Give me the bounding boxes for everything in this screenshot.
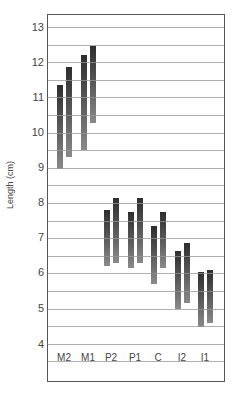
- y-axis-label: Length (cm): [5, 147, 15, 223]
- gridline: [48, 80, 224, 81]
- y-tick: 12: [22, 56, 44, 68]
- gridline: [48, 97, 224, 98]
- gridline: [48, 256, 224, 257]
- y-tick: 5: [22, 302, 44, 314]
- gridline: [48, 45, 224, 46]
- range-bar-m1-left: [81, 55, 87, 150]
- tooth-length-chart: 13 12 11 10 9 8 7 6 5 4 Length (cm) M2 M…: [0, 0, 238, 400]
- gridline: [48, 309, 224, 310]
- range-bar-i1-left: [198, 272, 204, 327]
- y-tick: 11: [22, 91, 44, 103]
- y-tick: 8: [22, 196, 44, 208]
- range-bar-m1-right: [90, 46, 96, 123]
- range-bar-i2-left: [175, 251, 181, 309]
- gridline: [48, 115, 224, 116]
- gridline: [48, 238, 224, 239]
- range-bar-c-left: [151, 226, 157, 284]
- gridline: [48, 133, 224, 134]
- gridline: [48, 27, 224, 28]
- gridline: [48, 62, 224, 63]
- gridline: [48, 326, 224, 327]
- range-bar-p1-right: [137, 198, 143, 263]
- y-tick: 13: [22, 21, 44, 33]
- gridline: [48, 361, 224, 362]
- gridline: [48, 150, 224, 151]
- gridline: [48, 291, 224, 292]
- y-tick: 4: [22, 338, 44, 350]
- gridline: [48, 185, 224, 186]
- y-tick: 6: [22, 266, 44, 278]
- gridline: [48, 203, 224, 204]
- range-bar-p2-right: [113, 198, 119, 263]
- range-bar-i1-right: [207, 270, 213, 323]
- y-tick: 10: [22, 126, 44, 138]
- gridline: [48, 344, 224, 345]
- gridline: [48, 168, 224, 169]
- gridline: [48, 221, 224, 222]
- gridline: [48, 273, 224, 274]
- y-tick: 9: [22, 161, 44, 173]
- y-tick: 7: [22, 231, 44, 243]
